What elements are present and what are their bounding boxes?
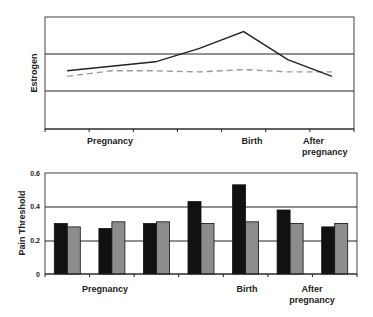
- x-label-birth: Birth: [242, 136, 263, 146]
- pain-threshold-chart: 0.6 0.4 0.2 0 Pain Threshold Pregnancy B…: [17, 170, 357, 305]
- bar-black: [143, 224, 156, 275]
- x-label-after: After: [301, 284, 322, 294]
- x-label-pregnancy: Pregnancy: [82, 284, 128, 294]
- y-tick-0.2: 0.2: [30, 237, 40, 244]
- bar-black: [233, 185, 246, 274]
- bar-black: [54, 224, 67, 275]
- estrogen-chart: Estrogen Pregnancy Birth After pregnancy: [29, 17, 354, 157]
- bar-gray: [201, 224, 214, 275]
- y-tick-0.4: 0.4: [30, 203, 40, 210]
- x-label-birth: Birth: [237, 284, 258, 294]
- x-label-pregnancy-after: pregnancy: [302, 147, 348, 157]
- bar-gray: [335, 224, 348, 275]
- bar-gray: [112, 222, 125, 274]
- bar-gray: [246, 222, 259, 274]
- y-tick-0: 0: [36, 271, 40, 278]
- estrogen-y-axis-label: Estrogen: [29, 53, 39, 92]
- bar-black: [277, 210, 290, 274]
- y-tick-0.6: 0.6: [30, 170, 40, 177]
- figure: Estrogen Pregnancy Birth After pregnancy…: [0, 0, 373, 317]
- x-label-pregnancy: Pregnancy: [87, 136, 133, 146]
- bar-gray: [290, 224, 303, 275]
- bar-black: [99, 229, 112, 275]
- x-label-pregnancy-after: pregnancy: [289, 295, 335, 305]
- bar-black: [322, 227, 335, 274]
- bar-gray: [156, 222, 169, 274]
- x-label-after: After: [303, 136, 324, 146]
- bar-black: [188, 202, 201, 274]
- bar-gray: [67, 227, 80, 274]
- pain-y-axis-label: Pain Threshold: [17, 190, 27, 255]
